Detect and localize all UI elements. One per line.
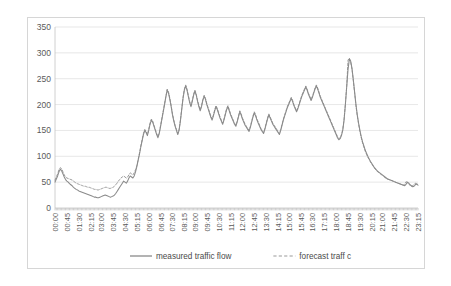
x-tick-label: 07:30: [168, 213, 177, 232]
x-tick-label: 06:45: [157, 213, 166, 232]
x-tick-label: 00:45: [63, 213, 72, 232]
y-tick-label: 150: [37, 125, 51, 135]
legend-label: forecast traff c: [299, 252, 351, 261]
x-tick-label: 09:00: [191, 213, 200, 232]
x-tick-label: 23:15: [414, 213, 423, 232]
x-tick-label: 11:15: [227, 213, 236, 231]
y-tick-label: 200: [37, 100, 51, 110]
y-tick-label: 250: [37, 74, 51, 84]
x-tick-label: 00:00: [51, 213, 60, 232]
y-tick-label: 100: [37, 151, 51, 161]
y-tick-label: 300: [37, 48, 51, 58]
x-tick-label: 16:30: [308, 213, 317, 232]
x-tick-label: 20:15: [368, 213, 377, 232]
x-tick-label: 01:30: [75, 213, 84, 232]
x-tick-label: 15:00: [285, 213, 294, 232]
x-axis-tick-labels: 00:0000:4501:3002:1503:0003:4504:3005:15…: [51, 208, 423, 232]
x-tick-label: 12:00: [238, 213, 247, 232]
chart-container: 050100150200250300350 00:0000:4501:3002:…: [27, 17, 425, 269]
traffic-flow-line-chart: 050100150200250300350 00:0000:4501:3002:…: [28, 18, 426, 270]
x-tick-label: 03:45: [109, 213, 118, 232]
y-tick-label: 0: [46, 203, 51, 213]
x-tick-label: 08:15: [180, 213, 189, 232]
x-tick-label: 06:00: [145, 213, 154, 232]
x-tick-label: 14:15: [274, 213, 283, 232]
y-tick-label: 350: [37, 22, 51, 32]
x-tick-label: 17:15: [320, 213, 329, 232]
x-tick-label: 21:45: [390, 213, 399, 232]
legend-label: measured traffic flow: [156, 252, 231, 261]
chart-legend: measured traffic flowforecast traff c: [130, 252, 351, 261]
x-tick-label: 18:45: [344, 213, 353, 232]
x-tick-label: 13:30: [262, 213, 271, 232]
x-tick-label: 10:30: [215, 213, 224, 232]
x-tick-label: 03:00: [97, 213, 106, 232]
x-tick-label: 05:15: [133, 213, 142, 232]
chart-plot-area: 050100150200250300350 00:0000:4501:3002:…: [28, 18, 426, 270]
x-tick-label: 12:45: [250, 213, 259, 232]
y-axis-tick-labels: 050100150200250300350: [37, 22, 51, 213]
x-tick-label: 02:15: [87, 213, 96, 232]
series-line-measured-traffic-flow: [55, 59, 418, 198]
x-tick-label: 15:45: [297, 213, 306, 232]
x-tick-label: 09:45: [203, 213, 212, 232]
x-tick-label: 04:30: [121, 213, 130, 232]
series-line-forecast-traffic: [55, 58, 417, 190]
x-tick-label: 19:30: [356, 213, 365, 232]
y-tick-label: 50: [42, 177, 52, 187]
x-tick-label: 22:30: [402, 213, 411, 232]
x-tick-label: 18:00: [332, 213, 341, 232]
gridlines-group: [55, 27, 418, 208]
x-tick-label: 21:00: [378, 213, 387, 232]
